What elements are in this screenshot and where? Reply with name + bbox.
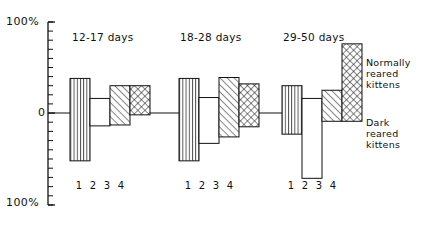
- bar-group-1-category-3: [219, 78, 239, 137]
- bar-group-1-category-1: [179, 78, 199, 160]
- group-title-29-50-days: 29-50 days: [283, 31, 345, 43]
- legend-dark-reared-kittens: Dark reared kittens: [366, 117, 400, 150]
- category-tick-label: 3: [312, 180, 326, 191]
- bar-group-2-category-4: [342, 44, 362, 121]
- category-tick-label: 4: [223, 180, 237, 191]
- bar-group-0-category-4: [130, 86, 150, 115]
- bar-group-2-category-2: [302, 98, 322, 178]
- bars-layer: [70, 44, 362, 178]
- axis-label-zero: 0: [38, 106, 45, 119]
- category-tick-label: 3: [209, 180, 223, 191]
- bar-group-2-category-3: [322, 90, 342, 121]
- category-ticks-group-0: 1234: [72, 180, 128, 191]
- axis-label-top: 100%: [6, 15, 39, 28]
- category-tick-label: 2: [195, 180, 209, 191]
- category-tick-label: 3: [100, 180, 114, 191]
- group-title-18-28-days: 18-28 days: [180, 31, 242, 43]
- category-ticks-group-1: 1234: [181, 180, 237, 191]
- bar-group-1-category-2: [199, 98, 219, 144]
- bar-group-0-category-1: [70, 78, 90, 160]
- category-tick-label: 1: [181, 180, 195, 191]
- category-tick-label: 2: [298, 180, 312, 191]
- bar-group-0-category-3: [110, 86, 130, 125]
- bar-group-2-category-1: [282, 86, 302, 134]
- category-tick-label: 2: [86, 180, 100, 191]
- category-tick-label: 4: [326, 180, 340, 191]
- axis-label-bottom: 100%: [6, 196, 39, 209]
- category-tick-label: 1: [72, 180, 86, 191]
- category-tick-label: 1: [284, 180, 298, 191]
- bar-group-0-category-2: [90, 98, 110, 125]
- bar-group-1-category-4: [239, 84, 259, 127]
- category-tick-label: 4: [114, 180, 128, 191]
- legend-normally-reared-kittens: Normally reared kittens: [366, 57, 411, 90]
- group-title-12-17-days: 12-17 days: [72, 31, 134, 43]
- category-ticks-group-2: 1234: [284, 180, 340, 191]
